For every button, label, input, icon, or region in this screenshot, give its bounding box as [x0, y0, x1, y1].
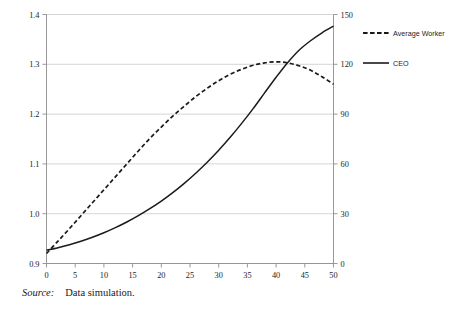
x-axis-tick-label: 35	[243, 271, 251, 280]
series-line-average-worker	[47, 62, 334, 254]
legend-label-ceo: CEO	[393, 59, 409, 68]
x-axis-tick-label: 30	[215, 271, 223, 280]
right-axis-tick-label: 120	[341, 60, 353, 69]
right-axis-tick-label: 0	[341, 260, 345, 269]
x-axis-tick-label: 45	[301, 271, 309, 280]
right-axis-tick-label: 30	[341, 210, 349, 219]
x-axis-tick-label: 15	[128, 271, 136, 280]
x-axis-tick-label: 40	[272, 271, 280, 280]
x-axis-tick-label: 10	[100, 271, 108, 280]
axes-group	[47, 15, 334, 264]
left-axis-tick-label: 1.4	[29, 11, 40, 20]
x-axis-tick-labels: 05101520253035404550	[44, 271, 337, 280]
legend-label-average-worker: Average Worker	[393, 29, 445, 38]
x-axis-tick-label: 5	[73, 271, 77, 280]
series-group	[47, 26, 334, 253]
figure-container: 0.91.01.11.21.31.4 0306090120150 0510152…	[0, 0, 461, 311]
chart-canvas: 0.91.01.11.21.31.4 0306090120150 0510152…	[0, 0, 461, 311]
right-axis-tick-labels: 0306090120150	[341, 11, 353, 269]
left-axis-tick-label: 1.0	[29, 210, 39, 219]
right-axis-tick-label: 60	[341, 160, 349, 169]
x-axis-tick-label: 0	[44, 271, 48, 280]
right-axis-tick-label: 90	[341, 110, 349, 119]
series-line-ceo	[47, 26, 334, 250]
right-axis-tick-label: 150	[341, 11, 353, 20]
left-axis-tick-label: 1.3	[29, 60, 39, 69]
tick-marks-group	[43, 15, 338, 268]
x-axis-tick-label: 50	[329, 271, 337, 280]
chart-legend: Average WorkerCEO	[363, 29, 445, 68]
left-axis-tick-label: 0.9	[29, 260, 39, 269]
source-text: Data simulation.	[65, 287, 134, 298]
x-axis-tick-label: 20	[157, 271, 165, 280]
gridlines-group	[47, 15, 334, 264]
left-axis-tick-labels: 0.91.01.11.21.31.4	[29, 11, 40, 269]
x-axis-tick-label: 25	[186, 271, 194, 280]
source-label: Source:	[22, 287, 54, 298]
source-note: Source:Data simulation.	[22, 287, 135, 298]
left-axis-tick-label: 1.2	[29, 110, 39, 119]
left-axis-tick-label: 1.1	[29, 160, 39, 169]
